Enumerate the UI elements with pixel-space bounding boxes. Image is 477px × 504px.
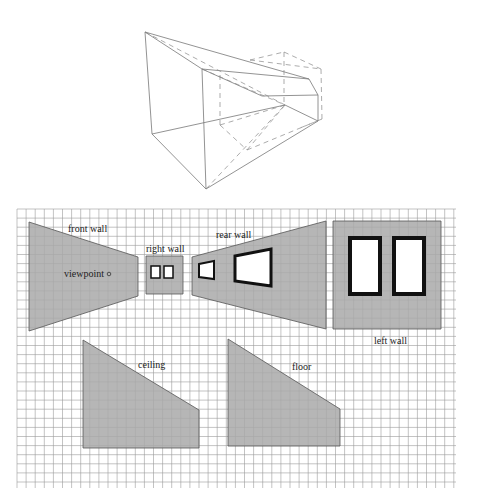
wireframe-hidden-edge <box>300 119 322 128</box>
floor-label: floor <box>292 361 312 372</box>
wireframe-hidden-edge <box>202 69 285 105</box>
wireframe-edge <box>309 79 318 95</box>
window-frame <box>151 266 160 278</box>
wireframe-hidden-edge <box>321 69 322 119</box>
floor-panel <box>228 339 340 446</box>
window-frame <box>164 266 173 278</box>
room-unfold-diagram: front wall right wall rear wall left wal… <box>0 0 477 504</box>
wireframe-edge <box>145 32 309 79</box>
rear-wall-label: rear wall <box>216 229 251 240</box>
right-wall-label: right wall <box>146 243 185 254</box>
wireframe-hidden-edge <box>206 105 285 189</box>
window-frame <box>394 238 424 294</box>
wireframe-edge <box>145 32 152 134</box>
wireframe-hidden-edge <box>284 52 321 69</box>
wireframe-edge <box>152 134 206 189</box>
left-wall-label: left wall <box>374 335 407 346</box>
wireframe-edge <box>152 105 285 134</box>
window-frame <box>235 249 271 286</box>
wireframe-hidden-edge <box>145 32 285 105</box>
wireframe-hidden-edge <box>220 125 247 150</box>
ceiling-panel <box>83 340 199 448</box>
front-wall-label: front wall <box>68 223 107 234</box>
wireframe-edge <box>145 32 202 69</box>
window-frame <box>350 238 380 294</box>
3d-room-wireframe <box>145 32 322 189</box>
wireframe-edge <box>285 105 318 121</box>
wireframe-edge <box>202 69 206 189</box>
wireframe-edge <box>262 95 318 96</box>
wireframe-edge <box>206 121 318 189</box>
wireframe-hidden-edge <box>250 60 321 69</box>
window-frame <box>199 261 214 279</box>
ceiling-label: ceiling <box>138 359 165 370</box>
viewpoint-label: viewpoint <box>64 268 104 279</box>
wireframe-hidden-edge <box>250 52 284 60</box>
